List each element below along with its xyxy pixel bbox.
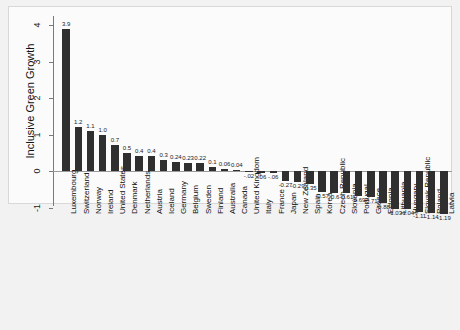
chart-figure: Inclusive Green Growth -101234 3.9Luxemb… (0, 0, 460, 330)
x-axis-category-label: Australia (228, 183, 237, 214)
x-axis-category-label: Netherlands (143, 171, 152, 214)
bar[interactable] (123, 153, 131, 171)
bar[interactable] (160, 160, 168, 171)
bar-value-label: 0.04 (224, 162, 250, 169)
x-axis-category-label: Denmark (130, 182, 139, 214)
bar-value-label: 3.9 (53, 21, 79, 28)
bar-value-label: 0.7 (102, 137, 128, 144)
bar[interactable] (318, 171, 326, 192)
x-axis-category-label: Austria (155, 189, 164, 214)
x-axis-category-label: United States (118, 166, 127, 214)
bar-value-label: 1.0 (90, 127, 116, 134)
bar[interactable] (270, 171, 278, 173)
bar[interactable] (282, 171, 290, 181)
bar[interactable] (391, 171, 399, 209)
bar[interactable] (330, 171, 338, 193)
x-axis-category-label: Italy (264, 199, 273, 214)
bar-value-label: -1.19 (431, 215, 457, 222)
x-axis-category-label: Sweden (204, 185, 213, 214)
x-axis-category-label: Iceland (167, 188, 176, 214)
x-axis-category-label: Finland (216, 188, 225, 214)
bar[interactable] (209, 167, 217, 171)
bar[interactable] (221, 169, 229, 171)
bars-layer: 3.9Luxembourg1.2Switzerland1.1Norway1.0I… (0, 0, 460, 330)
x-axis-category-label: Latvia (447, 193, 456, 214)
x-axis-category-label: Switzerland (82, 173, 91, 214)
bar[interactable] (404, 171, 412, 209)
x-axis-category-label: United Kingdom (252, 157, 261, 214)
x-axis-category-label: Belgium (191, 185, 200, 214)
bar[interactable] (87, 131, 95, 171)
bar[interactable] (257, 171, 265, 173)
x-axis-category-label: Germany (179, 181, 188, 214)
bar[interactable] (75, 127, 83, 171)
x-axis-category-label: Japan (289, 192, 298, 214)
bar[interactable] (184, 163, 192, 171)
x-axis-category-label: Norway (94, 187, 103, 214)
x-axis-category-label: France (277, 189, 286, 214)
bar[interactable] (233, 170, 241, 171)
bar[interactable] (172, 162, 180, 171)
bar[interactable] (135, 156, 143, 171)
bar[interactable] (306, 171, 314, 184)
x-axis-category-label: Canada (240, 186, 249, 214)
bar[interactable] (62, 29, 70, 171)
x-axis-category-label: Ireland (106, 190, 115, 214)
x-axis-category-label: Luxembourg (69, 170, 78, 214)
